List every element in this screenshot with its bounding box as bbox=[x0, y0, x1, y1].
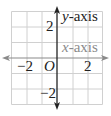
coordinate-plane: y-axis x-axis 2 −2 O 2 −2 bbox=[0, 0, 111, 116]
y-axis-label-var: y bbox=[60, 8, 69, 24]
tick-label-x-neg-2: −2 bbox=[17, 58, 33, 74]
x-axis-label-suffix: -axis bbox=[69, 39, 98, 55]
origin-label: O bbox=[44, 58, 55, 74]
tick-label-y-pos-2: 2 bbox=[46, 18, 54, 34]
y-axis-label: y-axis bbox=[60, 8, 98, 24]
y-axis-label-suffix: -axis bbox=[69, 8, 98, 24]
tick-label-x-pos-2: 2 bbox=[84, 58, 92, 74]
x-axis-label: x-axis bbox=[61, 39, 98, 55]
tick-label-y-neg-2: −2 bbox=[40, 85, 56, 101]
